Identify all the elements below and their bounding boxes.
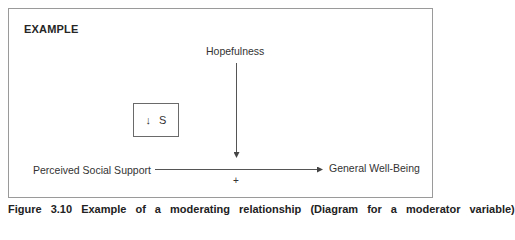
- legend-box-label: S: [159, 114, 166, 126]
- down-arrow-icon: ↓: [146, 114, 152, 126]
- moderator-node-hopefulness: Hopefulness: [206, 45, 264, 57]
- outcome-node-general-well-being: General Well-Being: [329, 162, 420, 174]
- figure-caption: Figure 3.10 Example of a moderating rela…: [8, 203, 515, 215]
- path-sign-positive: +: [233, 175, 239, 186]
- predictor-node-perceived-social-support: Perceived Social Support: [33, 164, 151, 176]
- example-heading: EXAMPLE: [24, 23, 79, 35]
- legend-box: ↓ S: [133, 103, 179, 137]
